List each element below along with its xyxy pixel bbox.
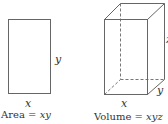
volume-caption-expr: xyz [146,111,163,122]
area-caption-prefix: Area = [1,109,40,120]
box-depth-label: y [157,85,163,96]
area-caption: Area = xy [1,110,51,120]
rectangle-shape [9,20,51,94]
box-width-label: x [121,98,127,109]
box-visible-edges [105,4,165,95]
volume-caption: Volume = xyz [94,112,163,122]
rectangle-width-label: x [25,98,31,109]
box-hidden-edges [105,4,165,95]
rectangle-height-label: y [55,54,61,65]
box-height-label: z [166,34,168,45]
volume-caption-prefix: Volume = [94,111,146,122]
area-caption-expr: xy [40,109,51,120]
